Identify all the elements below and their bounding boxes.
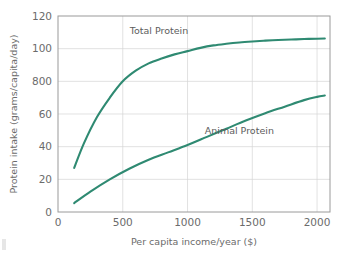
x-tick-label-4: 2000 — [304, 216, 331, 228]
y-tick-label-0: 0 — [45, 206, 52, 218]
y-tick-label-5: 100 — [32, 42, 52, 54]
y-axis-title: Protein intake (grams/capita/day) — [8, 34, 19, 193]
y-tick-label-4: 800 — [32, 75, 52, 87]
page-edge-artifact — [2, 239, 6, 250]
y-tick-label-2: 40 — [39, 140, 52, 152]
annotation-total-protein: Total Protein — [129, 25, 189, 36]
chart-figure: 0204060800100120 0500100015002000 Total … — [0, 0, 353, 253]
x-tick-label-0: 0 — [55, 216, 62, 228]
protein-intake-line-chart: 0204060800100120 0500100015002000 Total … — [0, 0, 353, 253]
x-tick-label-2: 1000 — [174, 216, 201, 228]
y-tick-label-3: 60 — [39, 108, 52, 120]
x-tick-label-1: 500 — [113, 216, 133, 228]
y-axis-tick-labels: 0204060800100120 — [32, 10, 52, 218]
x-axis-title: Per capita income/year ($) — [131, 236, 257, 247]
x-axis-tick-labels: 0500100015002000 — [55, 216, 331, 228]
y-tick-label-6: 120 — [32, 10, 52, 22]
x-tick-label-3: 1500 — [239, 216, 266, 228]
annotation-animal-protein: Animal Protein — [205, 125, 274, 136]
y-tick-label-1: 20 — [39, 173, 52, 185]
